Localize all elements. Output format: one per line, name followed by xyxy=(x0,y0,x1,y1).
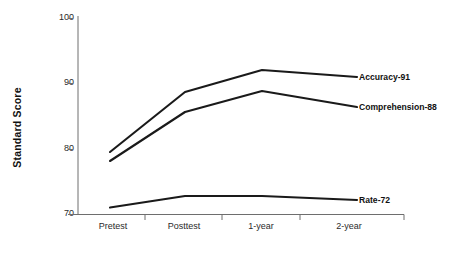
series-label-comprehension: Comprehension-88 xyxy=(359,103,437,112)
series-line-comprehension xyxy=(110,91,357,161)
series-label-accuracy: Accuracy-91 xyxy=(359,73,410,82)
plot-area xyxy=(0,0,461,255)
series-line-rate xyxy=(110,196,357,208)
chart-container: Standard Score 100 90 80 70 Pretest Post… xyxy=(0,0,461,255)
series-label-rate: Rate-72 xyxy=(359,196,390,205)
series-line-accuracy xyxy=(110,70,357,152)
